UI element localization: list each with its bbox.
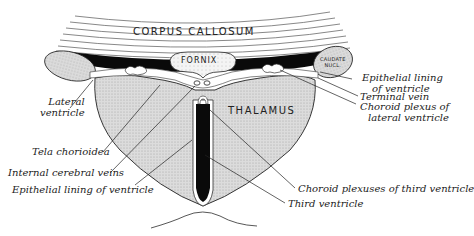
label-choroid-plexus-lateral-line2: lateral ventricle	[360, 112, 449, 123]
third-ventricle	[196, 104, 210, 202]
internal-cerebral-vein-right	[204, 81, 210, 85]
caudate-label-line2: NUCL.	[324, 62, 341, 68]
caudate-nucleus-label: CAUDATE NUCL.	[320, 56, 346, 68]
label-choroid-plexus-lateral-line1: Choroid plexus of	[360, 101, 449, 112]
internal-cerebral-vein-left	[194, 81, 200, 85]
label-epithelial-lining-left: Epithelial lining of ventricle	[12, 184, 154, 195]
choroid-plexus-right	[262, 64, 284, 73]
label-internal-cerebral-veins: Internal cerebral veins	[8, 167, 124, 178]
label-lateral-ventricle: Lateral ventricle	[40, 96, 85, 118]
label-lateral-ventricle-line2: ventricle	[40, 107, 85, 118]
label-choroid-plexuses-third: Choroid plexuses of third ventricle	[298, 183, 474, 194]
thalamus-label: THALAMUS	[228, 105, 295, 116]
label-tela-chorioidea: Tela chorioidea	[32, 146, 110, 157]
caudate-nucleus-left	[41, 46, 98, 87]
label-lateral-ventricle-line1: Lateral	[48, 96, 84, 107]
label-choroid-plexus-lateral: Choroid plexus of lateral ventricle	[360, 101, 449, 123]
fornix-label: FORNIX	[181, 56, 217, 65]
label-epithelial-lining-right-line1: Epithelial lining	[362, 72, 443, 83]
bottom-wave	[151, 212, 257, 228]
label-third-ventricle: Third ventricle	[288, 198, 363, 209]
choroid-plexus-left	[125, 66, 147, 75]
corpus-callosum-label: CORPUS CALLOSUM	[133, 26, 255, 37]
